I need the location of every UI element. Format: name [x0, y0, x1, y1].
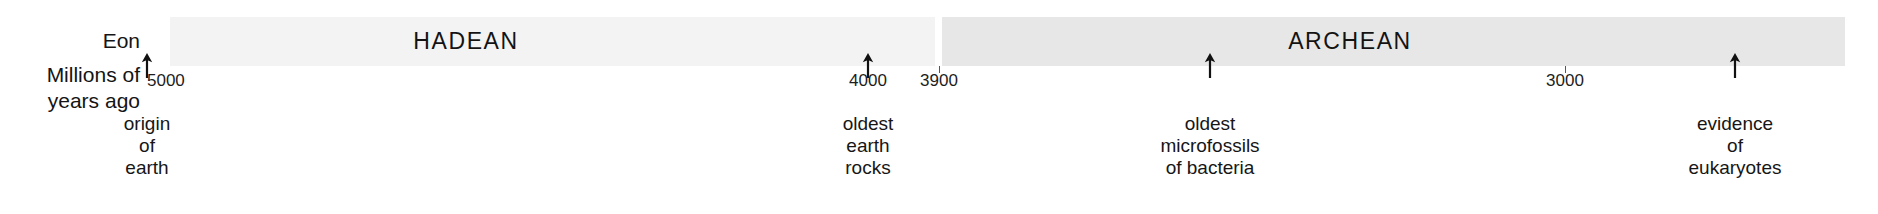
eon-band: HADEANARCHEAN — [170, 17, 1845, 66]
eon-segment-archean: ARCHEAN — [942, 17, 1845, 66]
event-caption: oldest microfossils of bacteria — [1160, 113, 1259, 179]
eon-segment-label: ARCHEAN — [1288, 28, 1412, 55]
up-arrow-icon — [1727, 53, 1743, 82]
up-arrow-icon — [1202, 53, 1218, 82]
event-caption: oldest earth rocks — [843, 113, 894, 179]
event-caption: origin of earth — [124, 113, 170, 179]
up-arrow-icon — [860, 53, 876, 82]
eon-segment-label: HADEAN — [413, 28, 518, 55]
axis-tick-label-3000: 3000 — [1546, 71, 1584, 90]
axis-tick-label-3900: 3900 — [920, 71, 958, 90]
eon-segment-hadean: HADEAN — [170, 17, 935, 66]
up-arrow-icon — [139, 53, 155, 82]
time-scale-row-label: Millions of years ago — [0, 62, 140, 114]
geologic-timeline-figure: Eon Millions of years ago HADEANARCHEAN … — [0, 0, 1878, 214]
event-caption: evidence of eukaryotes — [1689, 113, 1782, 179]
eon-row-label: Eon — [0, 28, 140, 54]
